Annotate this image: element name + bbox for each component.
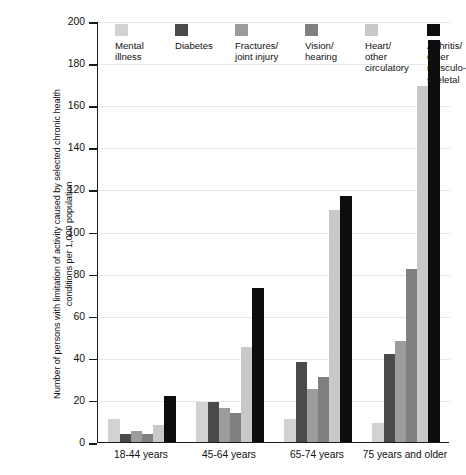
y-axis-tick-label: 200 (40, 17, 85, 27)
bar (219, 408, 230, 442)
bar (395, 341, 406, 442)
legend-swatch (235, 24, 248, 36)
bar (108, 419, 119, 442)
legend-item: Heart/ other circulatory (365, 24, 409, 74)
legend-item: Mental illness (115, 24, 144, 62)
y-axis-tick-label: 80 (40, 270, 85, 280)
bar (406, 269, 417, 442)
legend-item: Arthritis/ other musculo- skeletal (427, 24, 466, 85)
y-axis-tick-label: 140 (40, 143, 85, 153)
bar (384, 354, 395, 442)
bar (164, 396, 175, 442)
y-axis-title: Number of persons with limitation of act… (51, 34, 75, 454)
bar (131, 431, 142, 442)
bar (142, 434, 153, 442)
legend-item: Diabetes (175, 24, 213, 51)
x-axis-label: 75 years and older (361, 449, 449, 460)
legend-swatch (365, 24, 378, 36)
y-axis-tick-label: 120 (40, 185, 85, 195)
y-axis-tick (89, 190, 97, 192)
x-axis-label: 18-44 years (97, 449, 185, 460)
legend-swatch (175, 24, 188, 36)
y-axis-tick-label: 100 (40, 228, 85, 238)
bar (318, 377, 329, 442)
legend-label: Fractures/ joint injury (235, 40, 278, 62)
legend-swatch (305, 24, 318, 36)
bar (252, 288, 263, 442)
gridline (98, 22, 450, 23)
legend-swatch (427, 24, 440, 36)
legend-item: Fractures/ joint injury (235, 24, 278, 62)
legend-label: Diabetes (175, 40, 213, 51)
y-axis-tick (89, 359, 97, 361)
x-axis-label: 65-74 years (273, 449, 361, 460)
legend-label: Arthritis/ other musculo- skeletal (427, 40, 466, 85)
y-axis-tick (89, 401, 97, 403)
gridline (98, 148, 450, 149)
gridline (98, 233, 450, 234)
gridline (98, 275, 450, 276)
bar (284, 419, 295, 442)
bar (296, 362, 307, 442)
legend-label: Heart/ other circulatory (365, 40, 409, 74)
bar (208, 402, 219, 442)
bar (372, 423, 383, 442)
x-axis-label: 45-64 years (185, 449, 273, 460)
y-axis-tick-label: 180 (40, 59, 85, 69)
chart-legend: Mental illnessDiabetesFractures/ joint i… (97, 24, 449, 124)
gridline (98, 317, 450, 318)
bar (230, 413, 241, 442)
bar (241, 347, 252, 442)
bar (153, 425, 164, 442)
bar (196, 402, 207, 442)
y-axis-tick-label: 20 (40, 396, 85, 406)
y-axis-tick (89, 148, 97, 150)
y-axis-tick (89, 233, 97, 235)
y-axis-tick-label: 160 (40, 101, 85, 111)
y-axis-tick (89, 64, 97, 66)
legend-label: Mental illness (115, 40, 144, 62)
bar (120, 434, 131, 442)
y-axis-tick-label: 0 (40, 438, 85, 448)
y-axis-tick-label: 60 (40, 312, 85, 322)
y-axis-tick (89, 443, 97, 445)
y-axis-tick (89, 275, 97, 277)
gridline (98, 190, 450, 191)
legend-item: Vision/ hearing (305, 24, 337, 62)
legend-label: Vision/ hearing (305, 40, 337, 62)
legend-swatch (115, 24, 128, 36)
bar (340, 196, 351, 442)
bar (417, 86, 428, 442)
bar (307, 389, 318, 442)
y-axis-tick (89, 317, 97, 319)
y-axis-tick-label: 40 (40, 354, 85, 364)
bar (329, 210, 340, 442)
y-axis-tick (89, 22, 97, 24)
y-axis-tick (89, 106, 97, 108)
